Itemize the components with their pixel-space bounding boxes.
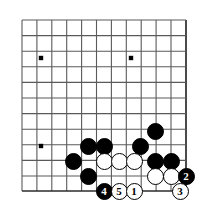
stone-black [96,138,113,155]
stone-white [96,153,113,170]
stone-black [163,153,180,170]
move-number-label: 4 [101,185,107,196]
stone-black [80,168,97,185]
stone-white [111,153,128,170]
move-stone-white-5: 5 [111,183,128,200]
move-number-label: 5 [116,185,122,196]
star-point [39,144,43,148]
stone-black [80,138,97,155]
stone-black [65,153,82,170]
move-stone-white-3: 3 [172,183,189,200]
move-number-label: 1 [131,185,137,196]
move-stone-black-4: 4 [96,183,113,200]
move-number-label: 3 [177,185,183,196]
stone-black [132,138,149,155]
move-number-label: 2 [183,170,189,181]
go-board-diagram: 24513 [0,0,208,212]
stone-black [147,153,164,170]
move-stone-white-1: 1 [126,183,143,200]
stone-black [147,123,164,140]
star-point [39,56,43,60]
stone-white [147,168,164,185]
stone-white [126,153,143,170]
move-stone-black-2: 2 [178,168,195,185]
star-point [129,56,133,60]
stone-white [163,168,180,185]
